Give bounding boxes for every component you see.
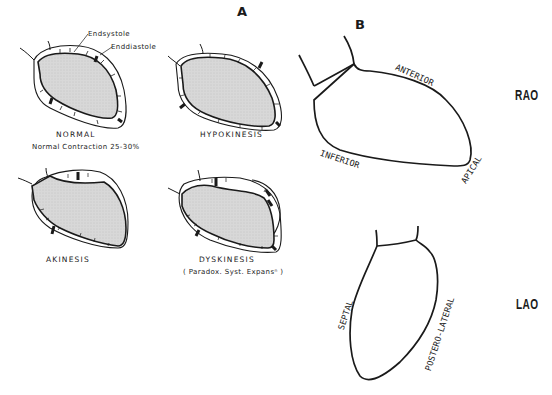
- lao-view-label: LAO: [516, 296, 538, 312]
- hypokinesis-title: HYPOKINESIS: [200, 130, 263, 139]
- hypokinesis-ventricle-diagram: [168, 44, 281, 130]
- normal-title: NORMAL: [56, 130, 96, 139]
- panel-b-letter: B: [355, 17, 365, 32]
- dyskinesis-title: DYSKINESIS: [199, 255, 255, 264]
- akinesis-title: AKINESIS: [46, 255, 90, 264]
- rao-view-label: RAO: [515, 87, 538, 103]
- normal-subtitle: Normal Contraction 25-30%: [32, 143, 140, 151]
- diagram-artwork: [0, 0, 552, 395]
- endsystole-label: Endsystole: [88, 30, 130, 38]
- lao-ventricle-outline: [350, 226, 438, 380]
- panel-a-letter: A: [237, 4, 247, 19]
- akinesis-ventricle-diagram: [18, 168, 128, 248]
- enddiastole-label: Enddiastole: [111, 43, 156, 51]
- dyskinesis-subtitle: ( Paradox. Syst. Expansⁿ ): [183, 268, 283, 276]
- dyskinesis-ventricle-diagram: [168, 170, 281, 252]
- figure: A B Endsystole Enddiastole NORMAL Normal…: [0, 0, 552, 395]
- rao-ventricle-outline: [299, 36, 471, 166]
